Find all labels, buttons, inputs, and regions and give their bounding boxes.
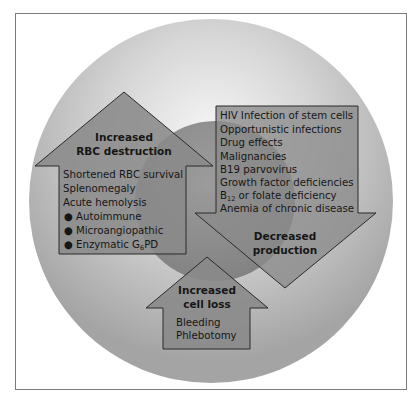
destruction-subitem: Autoimmune: [76, 211, 142, 222]
anemia-causes-diagram: Increased RBC destruction Shortened RBC …: [0, 0, 415, 397]
cell-loss-item: Phlebotomy: [176, 330, 237, 341]
g6pd-suffix: PD: [144, 239, 158, 250]
g6pd-prefix: Enzymatic G: [76, 239, 140, 250]
b12-subscript: 12: [227, 195, 235, 203]
production-title-line1: Decreased: [254, 230, 316, 242]
b12-suffix: or folate deficiency: [235, 190, 336, 201]
destruction-title-line2: RBC destruction: [76, 145, 172, 157]
production-item: HIV Infection of stem cells: [220, 110, 353, 121]
production-title-line2: production: [253, 244, 317, 256]
destruction-item: Splenomegaly: [63, 183, 135, 194]
bullet-icon: ●: [64, 225, 73, 236]
production-item: B19 parvovirus: [220, 164, 297, 175]
production-item: Drug effects: [220, 137, 283, 148]
bullet-icon: ●: [64, 239, 73, 250]
production-item: Opportunistic infections: [220, 124, 342, 135]
cell-loss-title-line2: cell loss: [183, 298, 231, 310]
cell-loss-item: Bleeding: [176, 317, 221, 328]
destruction-item: Acute hemolysis: [63, 197, 147, 208]
production-item: Anemia of chronic disease: [220, 203, 354, 214]
b12-prefix: B: [220, 190, 227, 201]
production-item: Growth factor deficiencies: [220, 177, 354, 188]
destruction-subitem: Microangiopathic: [76, 225, 163, 236]
bullet-icon: ●: [64, 211, 73, 222]
production-item: Malignancies: [220, 151, 286, 162]
cell-loss-title-line1: Increased: [178, 284, 236, 296]
destruction-title-line1: Increased: [95, 131, 153, 143]
destruction-item: Shortened RBC survival: [63, 169, 183, 180]
